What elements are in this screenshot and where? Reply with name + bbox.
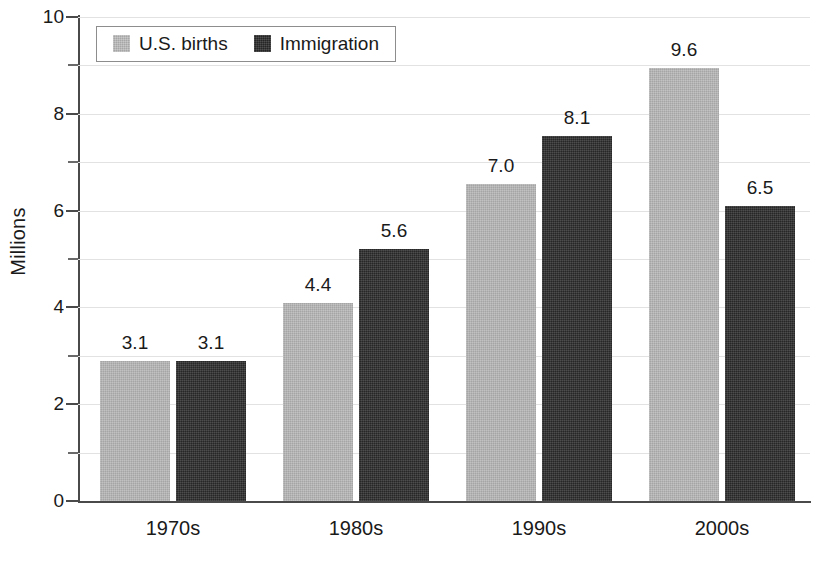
gridline <box>78 65 810 66</box>
bar-2000s-usbirths <box>649 68 719 501</box>
x-axis-tick-label: 1970s <box>113 518 233 538</box>
bar-value-label: 8.1 <box>542 108 612 127</box>
x-axis-tick-label: 1980s <box>296 518 416 538</box>
bar-1980s-usbirths <box>283 303 353 501</box>
bar-value-label: 9.6 <box>649 40 719 59</box>
bar-1980s-immigration <box>359 249 429 501</box>
legend-label: U.S. births <box>139 34 228 53</box>
bar-value-label: 5.6 <box>359 221 429 240</box>
legend-item-usbirths[interactable]: U.S. births <box>113 34 228 53</box>
bar-value-label: 3.1 <box>100 333 170 352</box>
bar-1970s-usbirths <box>100 361 170 501</box>
y-axis-minor-tick <box>68 355 78 357</box>
bar-chart-figure: Millions 3.13.14.45.67.08.19.66.5 024681… <box>0 0 831 563</box>
y-axis-tick-label: 10 <box>20 7 64 26</box>
y-axis-minor-tick <box>68 64 78 66</box>
bar-value-label: 6.5 <box>725 178 795 197</box>
plot-area: 3.13.14.45.67.08.19.66.5 <box>78 17 810 501</box>
legend-item-immigration[interactable]: Immigration <box>254 34 379 53</box>
y-axis-major-tick <box>66 403 78 405</box>
y-axis-major-tick <box>66 500 78 502</box>
y-axis-tick-label: 4 <box>20 297 64 316</box>
x-axis-tick-label: 2000s <box>662 518 782 538</box>
y-axis-tick-label: 6 <box>20 201 64 220</box>
bar-1990s-usbirths <box>466 184 536 501</box>
y-axis-major-tick <box>66 210 78 212</box>
legend-swatch-icon <box>254 35 271 52</box>
y-axis-major-tick <box>66 16 78 18</box>
bar-value-label: 4.4 <box>283 275 353 294</box>
y-axis-tick-label: 2 <box>20 394 64 413</box>
x-axis-line <box>78 501 811 503</box>
y-axis-major-tick <box>66 113 78 115</box>
legend-swatch-icon <box>113 35 130 52</box>
legend-label: Immigration <box>280 34 379 53</box>
gridline <box>78 17 810 18</box>
bar-value-label: 3.1 <box>176 333 246 352</box>
x-axis-tick-label: 1990s <box>479 518 599 538</box>
chart-legend: U.S. birthsImmigration <box>96 26 396 62</box>
bar-1970s-immigration <box>176 361 246 501</box>
y-axis-tick-label: 0 <box>20 491 64 510</box>
y-axis-minor-tick <box>68 258 78 260</box>
y-axis-tick-label: 8 <box>20 104 64 123</box>
y-axis-major-tick <box>66 306 78 308</box>
y-axis-minor-tick <box>68 161 78 163</box>
bar-1990s-immigration <box>542 136 612 501</box>
y-axis-minor-tick <box>68 452 78 454</box>
bar-value-label: 7.0 <box>466 156 536 175</box>
bar-2000s-immigration <box>725 206 795 501</box>
